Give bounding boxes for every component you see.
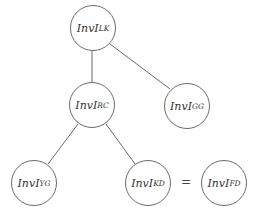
equivalence-symbol: = bbox=[181, 175, 191, 189]
node-subscript: FD bbox=[229, 179, 240, 188]
edge-rc-yg bbox=[48, 124, 78, 164]
node-subscript: RC bbox=[97, 101, 108, 110]
node-label: InvI bbox=[170, 100, 192, 113]
node-inv-kd: InvIKD bbox=[125, 160, 171, 206]
node-label: InvI bbox=[77, 22, 99, 35]
node-inv-rc: InvIRC bbox=[69, 82, 115, 128]
node-subscript: LK bbox=[99, 24, 110, 33]
node-subscript: KD bbox=[153, 179, 165, 188]
node-label: InvI bbox=[207, 177, 229, 190]
edge-rc-kd bbox=[106, 124, 135, 164]
node-inv-fd: InvIFD bbox=[201, 160, 247, 206]
node-label: InvI bbox=[131, 177, 153, 190]
node-label: InvI bbox=[75, 99, 97, 112]
node-subscript: GG bbox=[192, 102, 204, 111]
node-subscript: YG bbox=[40, 179, 51, 188]
node-inv-gg: InvIGG bbox=[164, 83, 210, 129]
node-inv-yg: InvIYG bbox=[11, 160, 57, 206]
node-inv-lk: InvILK bbox=[70, 5, 116, 51]
edge-lk-gg bbox=[110, 44, 170, 89]
node-label: InvI bbox=[18, 177, 40, 190]
